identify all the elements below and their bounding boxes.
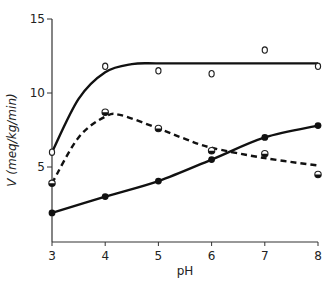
x-tick-label: 8	[314, 249, 322, 263]
filled-circle-marker	[208, 156, 215, 163]
open-circle-marker	[262, 47, 267, 53]
x-tick-label: 3	[48, 249, 56, 263]
x-tick-label: 6	[208, 249, 216, 263]
filled-circle-marker	[155, 178, 162, 185]
y-axis-title: V (meq/kg/min)	[5, 93, 19, 186]
y-tick-label: 10	[30, 86, 45, 100]
chart: 34567851015pHV (meq/kg/min)	[0, 0, 336, 288]
x-tick-label: 7	[261, 249, 269, 263]
filled-circle-marker	[261, 134, 268, 141]
markers	[49, 47, 322, 216]
filled-circle-marker	[49, 209, 56, 216]
series-curve-2	[52, 114, 318, 183]
open-circle-marker	[209, 71, 214, 77]
open-circle-marker	[103, 63, 108, 69]
open-circle-marker	[315, 63, 320, 69]
x-tick-label: 4	[101, 249, 109, 263]
open-circle-marker	[156, 68, 161, 74]
filled-circle-marker	[102, 193, 109, 200]
open-circle-marker	[49, 149, 54, 155]
y-tick-label: 5	[37, 160, 45, 174]
y-tick-label: 15	[30, 12, 45, 26]
x-tick-label: 5	[155, 249, 163, 263]
axes	[47, 19, 318, 246]
x-axis-title: pH	[177, 264, 194, 278]
filled-circle-marker	[315, 122, 322, 129]
curves	[52, 63, 318, 213]
